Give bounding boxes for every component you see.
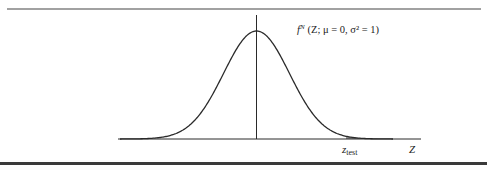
curve-label: fN(Z; μ = 0, σ² = 1) [297, 23, 380, 36]
test-statistic-label: ztest [341, 143, 358, 157]
bottom-rule [0, 162, 487, 165]
normal-distribution-figure: fN(Z; μ = 0, σ² = 1) ztest Z [0, 0, 487, 170]
axis-label-z: Z [409, 143, 416, 155]
